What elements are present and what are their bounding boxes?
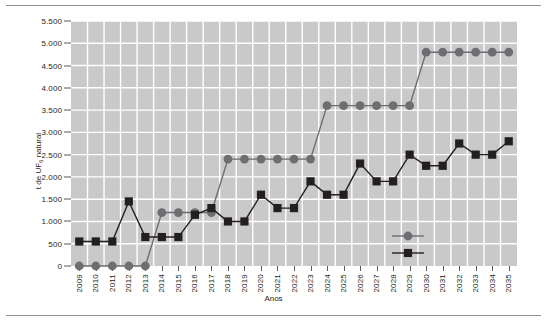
data-point-circle[interactable] <box>504 48 513 57</box>
x-axis-tick-label: 2024 <box>323 274 332 293</box>
data-point-circle[interactable] <box>488 48 497 57</box>
x-axis-tick-label: 2022 <box>290 274 299 293</box>
data-point-square[interactable] <box>240 217 248 225</box>
y-axis-tick-mark <box>64 243 71 244</box>
y-axis-tick-mark <box>64 87 71 88</box>
data-point-circle[interactable] <box>438 48 447 57</box>
data-point-circle[interactable] <box>405 101 414 110</box>
data-point-square[interactable] <box>108 237 116 245</box>
x-axis-tick-mark <box>178 266 179 271</box>
data-point-square[interactable] <box>273 204 281 212</box>
data-point-square[interactable] <box>422 162 430 170</box>
x-axis-tick-label: 2021 <box>273 274 282 293</box>
y-axis-tick-label: 500 <box>30 239 62 248</box>
data-point-square[interactable] <box>290 204 298 212</box>
plot-area <box>71 21 517 266</box>
x-axis-tick-label: 2009 <box>75 274 84 293</box>
x-axis-tick-mark <box>294 266 295 271</box>
y-axis-tick-label: 0 <box>30 262 62 271</box>
x-axis-tick-mark <box>244 266 245 271</box>
data-point-circle[interactable] <box>339 101 348 110</box>
x-axis-tick-mark <box>327 266 328 271</box>
data-point-square[interactable] <box>141 233 149 241</box>
data-point-square[interactable] <box>306 177 314 185</box>
x-axis-tick-mark <box>476 266 477 271</box>
y-axis-tick-label: 3.000 <box>30 128 62 137</box>
legend-marker-square[interactable] <box>404 249 412 257</box>
data-point-circle[interactable] <box>290 155 299 164</box>
data-point-circle[interactable] <box>108 262 117 271</box>
data-point-circle[interactable] <box>455 48 464 57</box>
y-axis-tick-label: 1.000 <box>30 217 62 226</box>
x-axis-tick-mark <box>311 266 312 271</box>
x-axis-tick-label: 2013 <box>141 274 150 293</box>
y-axis-tick-label: 1.500 <box>30 195 62 204</box>
data-point-circle[interactable] <box>323 101 332 110</box>
data-point-square[interactable] <box>174 233 182 241</box>
x-axis-tick-mark <box>509 266 510 271</box>
x-axis-tick-label: 2010 <box>91 274 100 293</box>
x-axis-tick-label: 2015 <box>174 274 183 293</box>
y-axis-tick-mark <box>64 176 71 177</box>
data-point-square[interactable] <box>224 217 232 225</box>
data-point-square[interactable] <box>75 237 83 245</box>
data-point-circle[interactable] <box>372 101 381 110</box>
y-axis-tick-label: 5.500 <box>30 17 62 26</box>
y-axis-tick-mark <box>64 221 71 222</box>
y-axis-tick-label: 4.000 <box>30 83 62 92</box>
data-point-circle[interactable] <box>75 262 84 271</box>
x-axis-tick-mark <box>393 266 394 271</box>
data-point-square[interactable] <box>92 237 100 245</box>
data-point-circle[interactable] <box>224 155 233 164</box>
data-point-square[interactable] <box>323 191 331 199</box>
y-axis-tick-label: 2.000 <box>30 172 62 181</box>
y-axis-tick-mark <box>64 65 71 66</box>
x-axis-tick-label: 2019 <box>240 274 249 293</box>
x-axis-tick-label: 2027 <box>372 274 381 293</box>
data-point-circle[interactable] <box>124 262 133 271</box>
data-point-circle[interactable] <box>306 155 315 164</box>
data-point-circle[interactable] <box>174 208 183 217</box>
data-point-square[interactable] <box>472 151 480 159</box>
x-axis-tick-mark <box>459 266 460 271</box>
data-point-square[interactable] <box>505 137 513 145</box>
data-point-circle[interactable] <box>240 155 249 164</box>
bottom-divider-rule <box>6 315 541 316</box>
data-point-square[interactable] <box>455 139 463 147</box>
x-axis-tick-label: 2035 <box>504 274 513 293</box>
data-point-square[interactable] <box>372 177 380 185</box>
data-point-square[interactable] <box>488 151 496 159</box>
data-point-square[interactable] <box>257 191 265 199</box>
data-point-circle[interactable] <box>273 155 282 164</box>
x-axis-tick-label: 2025 <box>339 274 348 293</box>
data-point-square[interactable] <box>158 233 166 241</box>
x-axis-tick-label: 2026 <box>356 274 365 293</box>
data-point-circle[interactable] <box>257 155 266 164</box>
data-point-square[interactable] <box>439 162 447 170</box>
data-point-square[interactable] <box>125 197 133 205</box>
data-point-circle[interactable] <box>141 262 150 271</box>
x-axis-tick-label: 2017 <box>207 274 216 293</box>
y-axis-tick-label: 4.500 <box>30 61 62 70</box>
x-axis-tick-mark <box>443 266 444 271</box>
x-axis-tick-label: 2033 <box>471 274 480 293</box>
x-axis-tick-mark <box>360 266 361 271</box>
data-point-square[interactable] <box>389 177 397 185</box>
data-point-circle[interactable] <box>389 101 398 110</box>
data-point-circle[interactable] <box>422 48 431 57</box>
data-point-square[interactable] <box>339 191 347 199</box>
x-axis-tick-mark <box>410 266 411 271</box>
data-point-circle[interactable] <box>91 262 100 271</box>
data-point-circle[interactable] <box>471 48 480 57</box>
data-point-square[interactable] <box>191 211 199 219</box>
y-axis-tick-mark <box>64 132 71 133</box>
data-point-circle[interactable] <box>356 101 365 110</box>
x-axis-tick-mark <box>377 266 378 271</box>
x-axis-tick-label: 2032 <box>455 274 464 293</box>
x-axis-tick-label: 2020 <box>256 274 265 293</box>
legend-marker-circle[interactable] <box>404 232 413 241</box>
data-point-circle[interactable] <box>157 208 166 217</box>
data-point-square[interactable] <box>406 151 414 159</box>
data-point-square[interactable] <box>356 159 364 167</box>
data-point-square[interactable] <box>207 204 215 212</box>
